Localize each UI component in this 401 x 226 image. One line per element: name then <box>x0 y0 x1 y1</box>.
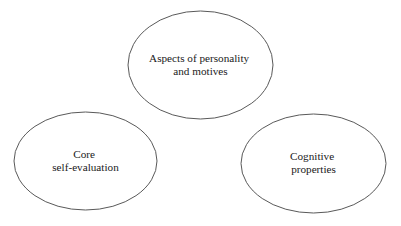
node-label-top-line2: and motives <box>173 65 227 77</box>
node-cognitive-properties[interactable]: Cognitive properties <box>241 114 386 213</box>
node-label-top-line1: Aspects of personality <box>149 52 249 64</box>
node-label-right-line1: Cognitive <box>290 150 334 162</box>
node-core-self-evaluation[interactable]: Core self-evaluation <box>14 112 157 210</box>
node-label-left-line1: Core <box>73 148 95 160</box>
node-label-right-line2: properties <box>291 163 336 175</box>
node-label-right: Cognitive properties <box>290 150 337 175</box>
node-aspects-of-personality-and-motives[interactable]: Aspects of personality and motives <box>128 11 273 119</box>
diagram-canvas: Aspects of personality and motives Core … <box>0 0 401 226</box>
node-label-left-line2: self-evaluation <box>52 161 119 173</box>
